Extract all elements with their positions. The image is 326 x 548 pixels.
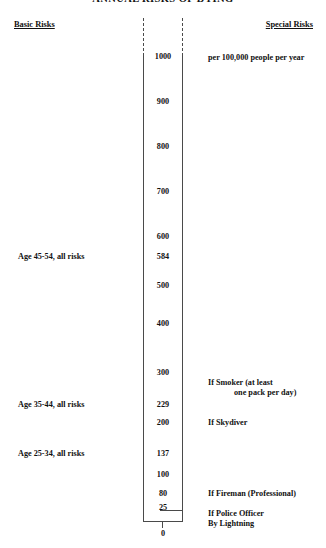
column-header-special-risks: Special Risks — [266, 20, 313, 29]
special-risk-label-police-officer: If Police Officer — [208, 509, 264, 519]
special-risk-label-smoker-line2: one pack per day) — [208, 388, 296, 398]
scale-value-584: 584 — [143, 252, 183, 261]
basic-risk-label-age-45-54: Age 45-54, all risks — [18, 252, 84, 262]
special-risk-label-fireman: If Fireman (Professional) — [208, 489, 296, 499]
scale-bottom-rule — [143, 521, 183, 522]
scale-value-400: 400 — [143, 319, 183, 328]
scale-value-25: 25 — [143, 503, 183, 512]
scale-right-rule-dashed — [182, 18, 183, 56]
special-risk-label-smoker-line1: If Smoker (at least — [208, 378, 273, 387]
basic-risk-label-age-35-44: Age 35-44, all risks — [18, 400, 84, 410]
column-header-basic-risks: Basic Risks — [14, 20, 55, 29]
scale-value-600: 600 — [143, 232, 183, 241]
special-risk-label-lightning: By Lightning — [208, 519, 254, 529]
scale-left-rule-dashed — [143, 18, 144, 56]
special-risk-label-skydiver: If Skydiver — [208, 418, 247, 428]
scale-value-700: 700 — [143, 187, 183, 196]
scale-value-80: 80 — [143, 489, 183, 498]
basic-risk-label-age-25-34: Age 25-34, all risks — [18, 449, 84, 459]
chart-title: ANNUAL RISKS OF DYING — [0, 0, 326, 4]
scale-value-300: 300 — [143, 368, 183, 377]
scale-value-200: 200 — [143, 418, 183, 427]
scale-value-800: 800 — [143, 142, 183, 151]
scale-value-137: 137 — [143, 449, 183, 458]
chart-page: ANNUAL RISKS OF DYING Basic Risks Specia… — [0, 0, 326, 548]
unit-note: per 100,000 people per year — [208, 53, 304, 62]
scale-value-1000: 1000 — [143, 52, 183, 61]
scale-value-500: 500 — [143, 281, 183, 290]
scale-value-900: 900 — [143, 97, 183, 106]
special-risk-label-smoker: If Smoker (at least one pack per day) — [208, 368, 296, 408]
scale-value-229: 229 — [143, 400, 183, 409]
scale-value-100: 100 — [143, 470, 183, 479]
tick-mark-zero — [162, 521, 163, 528]
scale-value-0: 0 — [143, 529, 183, 538]
